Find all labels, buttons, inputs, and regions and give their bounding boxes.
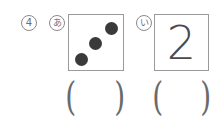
- question-number: 4: [21, 15, 37, 31]
- item-label-i-text: い: [140, 18, 149, 28]
- item-label-a: あ: [49, 15, 65, 31]
- question-number-text: 4: [26, 17, 32, 28]
- close-paren-a: ): [114, 76, 125, 116]
- digit-card: 2: [154, 14, 209, 71]
- dot-3: [105, 22, 118, 35]
- open-paren-i: (: [152, 76, 163, 116]
- dot-1: [75, 53, 88, 66]
- dot-2: [89, 37, 102, 50]
- open-paren-a: (: [65, 76, 76, 116]
- digit-text: 2: [155, 15, 208, 70]
- item-label-i: い: [136, 15, 152, 31]
- item-label-a-text: あ: [53, 18, 62, 28]
- dots-card: [68, 14, 124, 71]
- close-paren-i: ): [200, 76, 211, 116]
